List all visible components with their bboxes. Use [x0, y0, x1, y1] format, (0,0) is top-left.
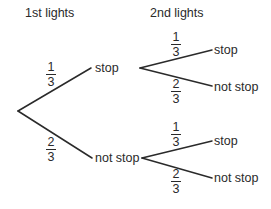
- denominator: 3: [169, 93, 183, 105]
- numerator: 2: [169, 168, 183, 180]
- probability-tree-diagram: 1st lights 2nd lights stop not stop 1 3 …: [0, 0, 271, 209]
- denominator: 3: [169, 136, 183, 148]
- numerator: 1: [44, 61, 58, 73]
- denominator: 3: [169, 46, 183, 58]
- denominator: 3: [44, 76, 58, 88]
- outcome-first-stop: stop: [95, 61, 119, 75]
- probability-first-not-stop: 2 3: [44, 136, 58, 163]
- outcome-first-not-stop: not stop: [95, 151, 139, 165]
- probability-second-stop-stop: 1 3: [169, 31, 183, 58]
- probability-second-stop-not-stop: 2 3: [169, 78, 183, 105]
- numerator: 1: [169, 31, 183, 43]
- numerator: 2: [169, 78, 183, 90]
- outcome-second-not-stop-stop: stop: [214, 134, 238, 148]
- denominator: 3: [169, 183, 183, 195]
- outcome-second-not-stop-not-stop: not stop: [214, 171, 258, 185]
- outcome-second-stop-stop: stop: [214, 43, 238, 57]
- probability-second-not-stop-not-stop: 2 3: [169, 168, 183, 195]
- denominator: 3: [44, 151, 58, 163]
- numerator: 1: [169, 121, 183, 133]
- numerator: 2: [44, 136, 58, 148]
- heading-second-lights: 2nd lights: [150, 6, 204, 20]
- probability-first-stop: 1 3: [44, 61, 58, 88]
- probability-second-not-stop-stop: 1 3: [169, 121, 183, 148]
- heading-first-lights: 1st lights: [25, 6, 74, 20]
- outcome-second-stop-not-stop: not stop: [214, 80, 258, 94]
